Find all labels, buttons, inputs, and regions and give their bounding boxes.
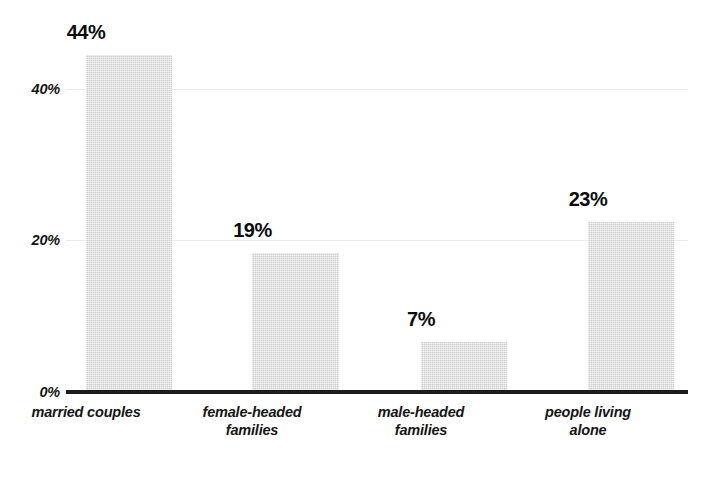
bar-people-living-alone xyxy=(588,222,674,392)
bar-female-headed-families xyxy=(252,253,339,392)
bar-chart: 40% 20% 0% 44% 19% 7% 23% married couple… xyxy=(0,0,707,485)
value-label-people-living-alone: 23% xyxy=(545,189,631,209)
x-category-label-people-living-alone: people living alone xyxy=(525,403,651,439)
y-tick-label-40: 40% xyxy=(32,82,60,97)
bar-male-headed-families xyxy=(421,342,507,392)
x-category-label-male-headed-families: male-headed families xyxy=(358,403,484,439)
x-category-label-female-headed-families: female-headed families xyxy=(189,403,315,439)
x-category-label-married-couples: married couples xyxy=(23,403,149,421)
value-label-male-headed-families: 7% xyxy=(378,309,464,329)
bar-married-couples xyxy=(86,55,172,392)
x-axis-line xyxy=(66,390,688,394)
y-tick-label-0: 0% xyxy=(39,385,60,400)
y-tick-label-20: 20% xyxy=(32,233,60,248)
value-label-female-headed-families: 19% xyxy=(209,220,296,240)
value-label-married-couples: 44% xyxy=(43,22,129,42)
